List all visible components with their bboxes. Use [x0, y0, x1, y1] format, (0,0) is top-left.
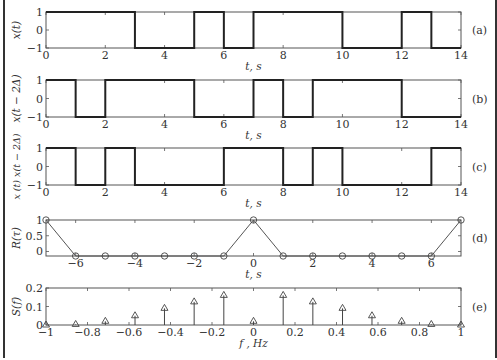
x-tick-label: 2 [102, 118, 109, 131]
panel-label: (a) [472, 24, 487, 37]
x-axis-label: t, s [245, 129, 262, 141]
x-tick-label: 12 [395, 118, 409, 131]
y-tick-label: 1 [36, 6, 43, 19]
x-tick-label: 14 [454, 186, 468, 199]
x-tick-label: 10 [335, 49, 349, 62]
panel-label: (c) [472, 161, 487, 174]
y-tick-label: −1 [27, 179, 43, 192]
x-tick-label: −0.2 [199, 326, 226, 339]
x-axis-label: t, s [245, 268, 262, 280]
axes-box [46, 220, 461, 256]
y-tick-label: 0 [36, 245, 43, 258]
x-tick-label: 12 [395, 186, 409, 199]
panel-a: 02468101214−101t, sx(t)(a) [10, 6, 487, 72]
y-tick-label: 1 [36, 142, 43, 155]
y-tick-label: 0 [36, 24, 43, 37]
y-axis-label: x(t) [10, 21, 22, 39]
panel-label: (b) [472, 93, 488, 106]
y-tick-label: 0 [36, 93, 43, 106]
x-axis-label: t, s [245, 60, 262, 72]
x-tick-label: −0.6 [116, 326, 143, 339]
y-axis-label: R(τ) [10, 227, 22, 250]
x-tick-label: 4 [161, 186, 168, 199]
y-axis-label: x (t) x(t − 2Δ) [11, 133, 22, 199]
x-tick-label: −0.4 [157, 326, 184, 339]
data-series [46, 12, 461, 48]
figure: 02468101214−101t, sx(t)(a)02468101214−10… [0, 0, 497, 360]
data-series [46, 148, 461, 185]
x-tick-label: 8 [280, 186, 287, 199]
y-tick-label: 0 [36, 319, 43, 332]
y-axis-label: x(t − 2Δ) [10, 74, 22, 122]
x-tick-label: 8 [280, 118, 287, 131]
panel-label: (e) [472, 301, 487, 314]
x-tick-label: 6 [220, 186, 227, 199]
x-tick-label: 6 [220, 49, 227, 62]
x-tick-label: 6 [220, 118, 227, 131]
x-tick-label: 10 [335, 186, 349, 199]
y-tick-label: 1 [36, 74, 43, 87]
panel-b: 02468101214−101t, sx(t − 2Δ)(b) [10, 74, 488, 141]
y-tick-label: 1 [36, 214, 43, 227]
x-tick-label: 0.8 [411, 326, 429, 339]
x-tick-label: 4 [161, 118, 168, 131]
stem-marker [428, 320, 435, 326]
x-tick-label: 8 [280, 49, 287, 62]
x-tick-label: 14 [454, 118, 468, 131]
panel-c: 02468101214−101t, sx (t) x(t − 2Δ)(c) [11, 133, 487, 209]
y-axis-label: S(f) [10, 297, 22, 316]
data-series [46, 80, 461, 117]
x-tick-label: 0.6 [369, 326, 387, 339]
x-tick-label: 10 [335, 118, 349, 131]
y-tick-label: 0.1 [26, 301, 44, 314]
x-tick-label: 0.2 [286, 326, 304, 339]
y-tick-label: 0.2 [26, 282, 44, 295]
x-tick-label: 4 [161, 49, 168, 62]
x-tick-label: −0.8 [74, 326, 101, 339]
x-tick-label: 2 [102, 186, 109, 199]
axes-box [46, 288, 461, 325]
y-tick-label: 0 [36, 161, 43, 174]
x-tick-label: 14 [454, 49, 468, 62]
panel-d: −6−4−2024600.51t, sR(τ)(d) [10, 214, 488, 280]
x-tick-label: 0 [43, 186, 50, 199]
x-tick-label: 12 [395, 49, 409, 62]
x-tick-label: 0 [43, 49, 50, 62]
data-series [46, 220, 461, 256]
x-tick-label: 1 [458, 326, 465, 339]
x-tick-label: 0.4 [328, 326, 346, 339]
x-tick-label: 2 [102, 49, 109, 62]
y-tick-label: −1 [27, 42, 43, 55]
x-axis-label: f , Hz [238, 337, 268, 349]
y-tick-label: 0.5 [26, 230, 44, 243]
x-tick-label: 0 [43, 118, 50, 131]
panel-e: −1−0.8−0.6−0.4−0.200.20.40.60.8100.10.2f… [10, 282, 487, 349]
x-axis-label: t, s [245, 197, 262, 209]
y-tick-label: −1 [27, 111, 43, 124]
axes-box [46, 148, 461, 185]
panel-label: (d) [472, 232, 488, 245]
